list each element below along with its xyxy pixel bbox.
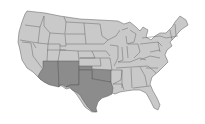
state-new-mexico xyxy=(58,61,79,87)
us-map xyxy=(0,0,205,124)
